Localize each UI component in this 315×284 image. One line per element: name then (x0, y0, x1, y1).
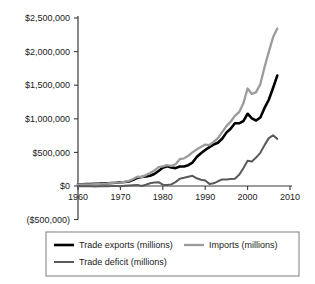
legend: Trade exports (millions)Imports (million… (46, 232, 299, 276)
x-tick-label: 2000 (238, 192, 258, 202)
x-tick-label: 1980 (153, 192, 173, 202)
y-tick-label: $0 (60, 181, 70, 191)
trade-chart: $2,500,000$2,000,000$1,500,000$1,000,000… (0, 0, 315, 284)
y-tick-label: $1,000,000 (25, 114, 70, 124)
y-tick-label: ($500,000) (26, 215, 70, 225)
y-tick-label: $2,500,000 (25, 13, 70, 23)
y-axis-tick-labels: $2,500,000$2,000,000$1,500,000$1,000,000… (25, 13, 70, 225)
x-tick-label: 1960 (68, 192, 88, 202)
chart-canvas: $2,500,000$2,000,000$1,500,000$1,000,000… (0, 0, 315, 284)
x-axis-group: 196019701980199020002010 (68, 186, 300, 202)
legend-label: Trade exports (millions) (79, 240, 173, 250)
y-tick-label: $2,000,000 (25, 47, 70, 57)
legend-box (46, 232, 299, 276)
data-series-group (78, 28, 277, 186)
legend-label: Trade deficit (millions) (79, 257, 167, 267)
legend-label: Imports (millions) (209, 240, 278, 250)
x-tick-label: 1990 (195, 192, 215, 202)
y-tick-label: $500,000 (32, 148, 70, 158)
x-tick-label: 1970 (110, 192, 130, 202)
x-axis-tick-labels: 196019701980199020002010 (68, 192, 300, 202)
y-tick-label: $1,500,000 (25, 80, 70, 90)
x-tick-label: 2010 (280, 192, 300, 202)
